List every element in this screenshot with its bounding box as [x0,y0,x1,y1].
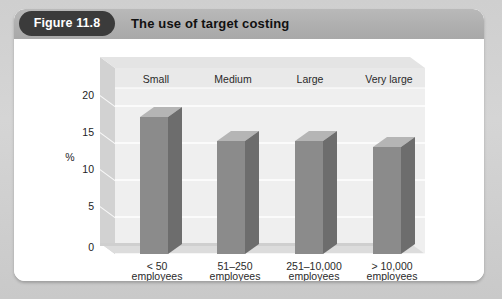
bar-group-3[interactable] [373,137,415,254]
bar-side-face-0 [168,107,182,254]
bar-group-1[interactable] [217,131,259,254]
y-axis: 20 15 10 5 0 % [65,89,94,253]
y-tick-label-5: 5 [88,200,94,212]
group-label-medium: Medium [214,73,252,85]
group-label-large: Large [297,73,324,85]
bar-side-face-1 [245,131,259,254]
bar-group-2[interactable] [295,131,337,254]
y-tick-label-0: 0 [88,241,94,253]
group-label-small: Small [143,73,169,85]
y-axis-title: % [65,151,74,163]
bar-front-face-3 [373,147,401,254]
bar-front-face-0 [140,117,168,254]
x-label-1-line2: employees [210,270,261,281]
bar-side-face-3 [401,137,415,254]
chart-area: 20 15 10 5 0 % Small Medium Large Very l… [14,39,484,281]
group-label-very-large: Very large [365,73,412,85]
bar-front-face-2 [295,141,323,254]
bar-side-face-2 [323,131,337,254]
x-label-2-line2: employees [289,270,340,281]
x-label-3-line2: employees [367,270,418,281]
page-background: Figure 11.8 The use of target costing [0,0,502,299]
bar-chart-svg: 20 15 10 5 0 % Small Medium Large Very l… [14,39,484,281]
figure-title: The use of target costing [131,9,289,39]
plot-wall-top-cap [100,57,425,68]
figure-number-pill: Figure 11.8 [19,11,115,36]
figure-card: Figure 11.8 The use of target costing [14,9,484,281]
figure-header-band: Figure 11.8 The use of target costing [14,9,484,39]
bar-front-face-1 [217,141,245,254]
x-axis-labels: < 50 employees 51–250 employees 251–10,0… [132,260,418,281]
plot-left-wall [100,57,115,254]
y-tick-label-20: 20 [82,89,94,101]
x-label-0-line2: employees [132,270,183,281]
y-tick-label-10: 10 [82,163,94,175]
y-tick-label-15: 15 [82,126,94,138]
bar-group-0[interactable] [140,107,182,254]
